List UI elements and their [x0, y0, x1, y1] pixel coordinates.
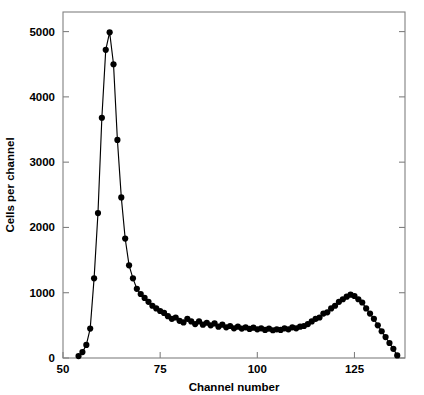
data-point	[87, 326, 93, 332]
y-tick-label: 2000	[29, 221, 55, 233]
dna-histogram-chart: 5075100125 010002000300040005000 Channel…	[0, 0, 424, 395]
data-point	[363, 305, 369, 311]
y-tick-label: 4000	[29, 91, 55, 103]
data-point	[375, 322, 381, 328]
data-point	[126, 262, 132, 268]
data-point	[114, 137, 120, 143]
x-tick-label: 50	[57, 363, 70, 375]
data-point	[95, 210, 101, 216]
right-axis-ticks	[399, 32, 405, 358]
x-tick-label: 100	[248, 363, 267, 375]
data-point	[107, 29, 113, 35]
data-point	[99, 115, 105, 121]
data-point	[359, 299, 365, 305]
data-point	[386, 340, 392, 346]
data-point	[379, 328, 385, 334]
y-axis-ticks	[63, 32, 69, 358]
y-tick-label: 0	[49, 352, 55, 364]
data-series-line	[79, 32, 398, 356]
x-tick-label: 125	[345, 363, 365, 375]
data-point	[103, 47, 109, 53]
y-axis-tick-labels: 010002000300040005000	[29, 26, 55, 364]
data-point	[130, 275, 136, 281]
x-axis-tick-labels: 5075100125	[57, 363, 365, 375]
y-tick-label: 5000	[29, 26, 55, 38]
data-point	[134, 286, 140, 292]
data-point	[83, 342, 89, 348]
data-point	[367, 311, 373, 317]
x-tick-label: 75	[154, 363, 167, 375]
x-axis-ticks	[63, 352, 354, 358]
data-point	[394, 352, 400, 358]
y-axis-title: Cells per channel	[4, 137, 16, 232]
data-point	[110, 61, 116, 67]
data-point	[390, 346, 396, 352]
data-point	[91, 275, 97, 281]
y-tick-label: 3000	[29, 156, 55, 168]
data-point	[79, 349, 85, 355]
x-axis-title: Channel number	[189, 381, 280, 393]
data-point	[382, 334, 388, 340]
data-point	[122, 235, 128, 241]
chart-figure: 5075100125 010002000300040005000 Channel…	[0, 0, 424, 395]
data-point	[371, 316, 377, 322]
data-series-points	[75, 29, 400, 359]
data-point	[118, 194, 124, 200]
y-tick-label: 1000	[29, 287, 55, 299]
